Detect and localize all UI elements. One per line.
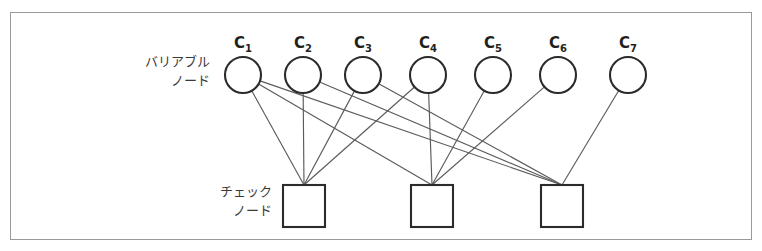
check-node-label-line1: チェック bbox=[220, 184, 272, 199]
variable-node-subscript-c4: 4 bbox=[430, 43, 437, 54]
tanner-graph-diagram: C1C2C3C4C5C6C7 バリアブル ノード チェック ノード bbox=[0, 0, 762, 251]
check-node-label-line2: ノード bbox=[233, 203, 272, 218]
variable-node-c3[interactable] bbox=[345, 57, 381, 93]
edges-group bbox=[252, 81, 619, 185]
variable-node-subscript-c5: 5 bbox=[495, 43, 502, 54]
figure-root: C1C2C3C4C5C6C7 バリアブル ノード チェック ノード bbox=[0, 0, 762, 251]
variable-node-caption-c4: C4 bbox=[419, 34, 437, 54]
variable-node-c4[interactable] bbox=[410, 57, 446, 93]
variable-node-label-line2: ノード bbox=[171, 73, 210, 88]
variable-node-caption-c7: C7 bbox=[619, 34, 637, 54]
check-node-cn1[interactable] bbox=[283, 185, 325, 227]
variable-node-c1[interactable] bbox=[225, 57, 261, 93]
edge-c1-cn3 bbox=[260, 81, 562, 185]
variable-node-caption-c3: C3 bbox=[354, 34, 372, 54]
variable-node-c6[interactable] bbox=[540, 57, 576, 93]
edge-c2-cn1 bbox=[303, 93, 304, 185]
variable-node-subscript-c1: 1 bbox=[245, 43, 252, 54]
check-node-cn2[interactable] bbox=[411, 185, 453, 227]
variable-node-c7[interactable] bbox=[610, 57, 646, 93]
variable-nodes-group: C1C2C3C4C5C6C7 bbox=[225, 34, 646, 93]
check-nodes-group bbox=[283, 185, 583, 227]
variable-node-c2[interactable] bbox=[285, 57, 321, 93]
variable-node-caption-c1: C1 bbox=[234, 34, 252, 54]
variable-node-subscript-c7: 7 bbox=[630, 43, 637, 54]
edge-c7-cn3 bbox=[562, 90, 619, 185]
variable-node-subscript-c2: 2 bbox=[305, 43, 312, 54]
variable-node-caption-c5: C5 bbox=[484, 34, 502, 54]
variable-node-subscript-c6: 6 bbox=[560, 43, 567, 54]
variable-node-c5[interactable] bbox=[475, 57, 511, 93]
variable-node-subscript-c3: 3 bbox=[365, 43, 372, 54]
check-node-cn3[interactable] bbox=[541, 185, 583, 227]
variable-node-caption-c6: C6 bbox=[549, 34, 567, 54]
edge-c1-cn1 bbox=[252, 91, 304, 185]
variable-node-label-line1: バリアブル bbox=[145, 54, 210, 69]
variable-node-caption-c2: C2 bbox=[294, 34, 312, 54]
